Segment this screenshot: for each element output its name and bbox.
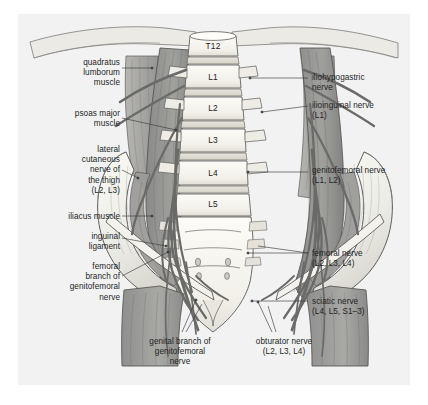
anatomical-figure: T12 L1 L2 L3 L4 L5 quadratus lumborum mu…	[0, 0, 428, 405]
label-sciatic-nerve: sciatic nerve (L4, L5, S1–3)	[312, 297, 422, 317]
label-inguinal-ligament: inguinal ligament	[38, 232, 120, 252]
label-genitofemoral-nerve: genitofemoral nerve (L1, L2)	[312, 166, 426, 186]
label-femoral-nerve: femoral nerve (L2, L3, L4)	[312, 249, 422, 269]
vertebra-label-l4: L4	[193, 168, 233, 178]
label-iliohypogastric-nerve: iliohypogastric nerve	[312, 73, 422, 93]
label-obturator-nerve: obturator nerve (L2, L3, L4)	[236, 337, 332, 357]
vertebra-label-l3: L3	[193, 135, 233, 145]
label-genital-branch-of-genitofemoral-nerve: genital branch of genitofemoral nerve	[128, 337, 232, 368]
label-quadratus-lumborum-muscle: quadratus lumborum muscle	[38, 58, 120, 89]
vertebra-label-l5: L5	[193, 199, 233, 209]
vertebra-label-t12: T12	[193, 41, 233, 51]
label-iliacus-muscle: iliacus muscle	[28, 212, 120, 222]
vertebra-label-l1: L1	[193, 72, 233, 82]
label-lateral-cutaneous-nerve-of-the-thigh: lateral cutaneous nerve of the thigh (L2…	[38, 145, 120, 196]
label-psoas-major-muscle: psoas major muscle	[38, 109, 120, 129]
label-ilioinguinal-nerve: ilioinguinal nerve (L1)	[312, 101, 422, 121]
label-femoral-branch-of-genitofemoral-nerve: femoral branch of genitofemoral nerve	[28, 262, 120, 303]
vertebra-label-l2: L2	[193, 103, 233, 113]
